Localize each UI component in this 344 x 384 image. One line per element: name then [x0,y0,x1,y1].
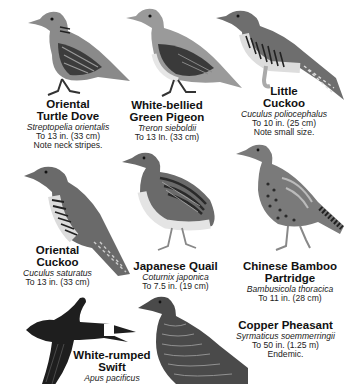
oriental-turtle-dove-illustration [18,5,128,100]
caption-white-bellied-green-pigeon: White-bellied Green Pigeon Treron siebol… [112,99,222,142]
japanese-quail-illustration [120,148,225,253]
caption-oriental-cuckoo: Oriental Cuckoo Cuculus saturatus To 13 … [0,244,115,287]
bird-size: To 13 in. (33 cm) [0,278,115,287]
bird-common-name: Oriental [8,98,128,110]
caption-japanese-quail: Japanese Quail Coturnix japonica To 7.5 … [118,260,233,291]
bird-common-name: Little [224,85,344,97]
bird-common-name: Green Pigeon [112,111,222,123]
bird-common-name: Turtle Dove [8,110,128,122]
bird-common-name: Partridge [236,272,344,284]
bird-common-name: Cuckoo [224,97,344,109]
caption-little-cuckoo: Little Cuckoo Cuculus poliocephalus To 1… [224,85,344,137]
bird-size: To 7.5 in. (19 cm) [118,282,233,291]
bird-note: Note neck stripes. [8,141,128,150]
bird-common-name: Copper Pheasant [228,319,343,331]
bird-common-name: Chinese Bamboo [236,260,344,272]
caption-copper-pheasant: Copper Pheasant Syrmaticus soemmerringii… [228,319,343,359]
bird-note: Endemic. [228,350,343,359]
bird-common-name: White-bellied [112,99,222,111]
caption-chinese-bamboo-partridge: Chinese Bamboo Partridge Bambusicola tho… [236,260,344,303]
bird-note: Note small size. [224,128,344,137]
bird-common-name: Japanese Quail [118,260,233,272]
bird-size: To 13 In. (33 cm) [112,133,222,142]
bird-size: To 11 in. (28 cm) [236,294,344,303]
bird-common-name: Oriental [0,244,115,256]
bird-common-name: Cuckoo [0,256,115,268]
caption-oriental-turtle-dove: Oriental Turtle Dove Streptopelia orient… [8,98,128,150]
chinese-bamboo-partridge-illustration [234,142,343,257]
